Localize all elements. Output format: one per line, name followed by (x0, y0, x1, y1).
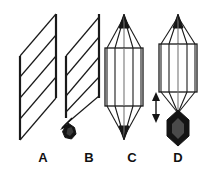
panel-c (105, 14, 143, 140)
panel-d-measure-arrow (152, 92, 160, 123)
panel-label-a: A (33, 150, 53, 165)
panel-label-d: D (168, 150, 188, 165)
panel-a-fibers (20, 14, 56, 140)
panel-d-fibers-top (161, 17, 195, 44)
panel-a-fiber (20, 56, 56, 98)
panel-b-fiber (66, 17, 99, 56)
panel-c-fibers-top (107, 17, 141, 48)
panel-b-fiber (66, 57, 99, 96)
panel-d (152, 14, 197, 146)
panel-d-chromosome (167, 110, 189, 146)
panel-b-fiber (66, 37, 99, 76)
panel-label-b: B (79, 150, 99, 165)
panel-label-c: C (122, 150, 142, 165)
panel-c-fibers-through-box (107, 48, 141, 106)
panel-a-fiber (20, 35, 56, 77)
panel-a-fiber (20, 98, 56, 140)
panel-b-fiber (66, 77, 99, 112)
diagram-canvas (0, 0, 210, 175)
panel-a-fiber (20, 77, 56, 119)
panel-a (20, 14, 56, 140)
panel-d-arrowhead-down (152, 114, 160, 123)
panel-b-fibers (66, 17, 99, 124)
panel-c-fibers-bottom (107, 106, 141, 137)
panel-d-fibers-through-box (161, 44, 195, 92)
figure-container: A B C D (0, 0, 210, 175)
panel-d-arrowhead-up (152, 92, 160, 101)
panel-a-fiber (20, 14, 56, 56)
panel-b (60, 14, 99, 139)
